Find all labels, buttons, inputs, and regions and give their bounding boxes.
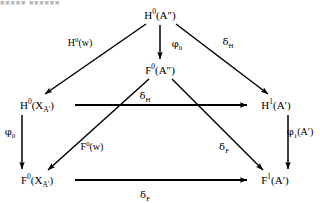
node-h0-x-a-prime: H0(XA′) bbox=[20, 100, 54, 111]
edge-label-f0-w: F0(w) bbox=[81, 142, 104, 152]
edge-label-phi-1-a-prime: φ1(A′) bbox=[287, 127, 314, 137]
edge-label-delta-f-bottom: δF bbox=[140, 190, 150, 200]
arrow-h0app-to-h0xa bbox=[45, 24, 146, 94]
arrow-h0app-to-h1a bbox=[176, 24, 268, 94]
edge-label-h0-w: H0(w) bbox=[68, 38, 93, 48]
edge-label-delta-f-diagonal: δF bbox=[219, 142, 229, 152]
edge-label-phi-0-left: φ0 bbox=[5, 127, 15, 137]
arrow-f0app-to-f0xa bbox=[48, 79, 149, 170]
arrow-f0app-to-f1a bbox=[172, 79, 263, 170]
edge-label-delta-h-right: δH bbox=[223, 37, 234, 47]
edge-label-delta-h-middle: δH bbox=[140, 91, 151, 101]
node-f0-a-double-prime: F0(A″) bbox=[145, 65, 175, 76]
node-f0-x-a-prime: F0(XA′) bbox=[21, 175, 53, 186]
commutative-diagram-figure: ■■■■■ ■■■■■■ H0(A″) F0(A″) H0(XA′) H1(A′… bbox=[0, 0, 320, 203]
node-h0-a-double-prime: H0(A″) bbox=[144, 10, 176, 21]
node-h1-a-prime: H1(A′) bbox=[261, 100, 290, 111]
edge-label-phi-0-vertical-top: φ0 bbox=[172, 39, 182, 49]
node-f1-a-prime: F1(A′) bbox=[261, 175, 289, 186]
